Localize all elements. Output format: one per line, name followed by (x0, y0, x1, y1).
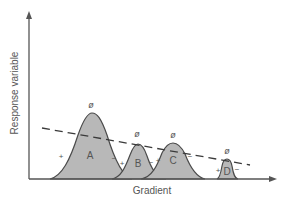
axes (26, 11, 277, 182)
y-axis-arrow-icon (26, 11, 32, 19)
curve-b-label: B (135, 158, 142, 169)
curve-c-label: C (169, 155, 176, 166)
species-response-diagram: Response variable Gradient ø A + − ø B +… (0, 0, 287, 212)
curve-b-top-symbol: ø (134, 129, 140, 139)
y-axis-label: Response variable (9, 51, 20, 134)
curve-d-minus: − (235, 165, 240, 174)
x-axis-arrow-icon (269, 176, 277, 182)
curve-d-top-symbol: ø (224, 146, 230, 156)
curve-a-minus: − (112, 154, 117, 163)
x-axis-label: Gradient (133, 185, 172, 196)
curve-a-label: A (87, 150, 94, 161)
curve-a (50, 113, 132, 179)
curve-b-minus: − (149, 158, 154, 167)
curve-b-plus: + (120, 159, 125, 168)
curve-a-top-symbol: ø (88, 100, 94, 110)
curve-c-top-symbol: ø (170, 130, 176, 140)
curve-a-plus: + (59, 152, 64, 161)
curve-d-plus: + (216, 166, 221, 175)
response-curves (50, 113, 238, 179)
curve-c-plus: + (156, 156, 161, 165)
curve-c-minus: − (188, 152, 193, 161)
curve-d-label: D (223, 166, 230, 177)
